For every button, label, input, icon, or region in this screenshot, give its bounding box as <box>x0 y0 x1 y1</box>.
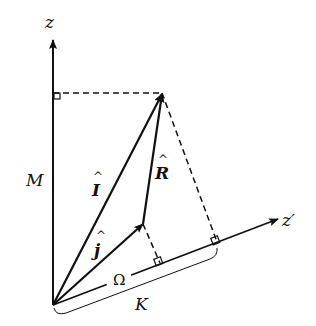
z-prime-axis <box>53 219 278 305</box>
right-angle-mark-z <box>54 93 60 99</box>
j-hat-caret: ^ <box>96 229 106 243</box>
right-angle-mark-j <box>154 257 163 266</box>
right-angle-mark-R <box>211 236 220 245</box>
z-axis-label: z <box>44 12 55 32</box>
vector-diagram: z z′ M K Ω I ^ j ^ R ^ <box>0 0 316 326</box>
dashed-R-projection <box>162 93 217 242</box>
K-label: K <box>134 294 149 314</box>
I-hat-caret: ^ <box>93 170 103 184</box>
z-prime-axis-label: z′ <box>281 210 295 230</box>
M-label: M <box>25 170 44 190</box>
R-hat-caret: ^ <box>158 153 168 167</box>
dashed-j-projection <box>143 224 160 263</box>
j-hat-label: j <box>91 240 101 260</box>
Omega-label: Ω <box>113 271 125 289</box>
